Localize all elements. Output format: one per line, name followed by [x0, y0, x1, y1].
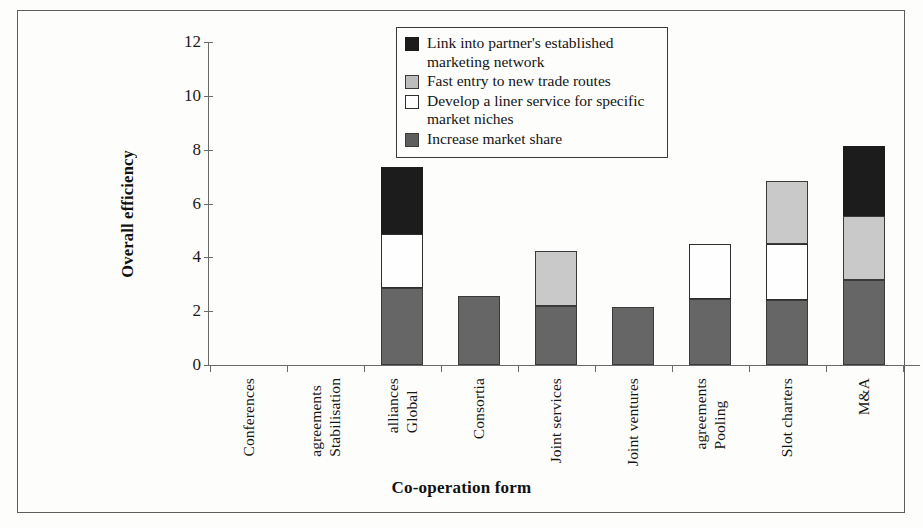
bar-group	[766, 181, 808, 365]
bar-segment	[458, 296, 500, 365]
x-category-label-line: Joint services	[547, 378, 565, 463]
y-tick-mark	[204, 204, 213, 205]
legend-item-label: Link into partner's established marketin…	[427, 34, 659, 71]
legend-item-label: Increase market share	[427, 130, 562, 149]
legend-item-label: Develop a liner service for specific mar…	[427, 92, 659, 129]
bar-segment	[535, 306, 577, 365]
bar-segment	[689, 299, 731, 365]
x-category-label: M&A	[824, 378, 904, 415]
y-tick-label: 12	[184, 32, 201, 52]
legend-swatch-icon	[405, 133, 419, 147]
y-tick-label: 4	[193, 247, 202, 267]
x-category-label-line: agreements	[692, 378, 710, 450]
x-category-label-line: Stabilisation	[326, 378, 344, 457]
x-category-label-line: Pooling	[711, 378, 729, 450]
legend-swatch-icon	[405, 37, 419, 51]
x-category-label: Stabilisationagreements	[285, 378, 365, 457]
x-category-label: Slot charters	[747, 378, 827, 457]
x-tick-mark	[518, 365, 519, 372]
x-tick-mark	[826, 365, 827, 372]
legend-swatch-icon	[405, 75, 419, 89]
y-tick-mark	[204, 42, 213, 43]
bar-segment	[766, 181, 808, 244]
legend-item: Develop a liner service for specific mar…	[405, 92, 659, 129]
legend-item: Link into partner's established marketin…	[405, 34, 659, 71]
bar-group	[612, 307, 654, 365]
x-tick-mark	[441, 365, 442, 372]
y-tick-label: 6	[193, 194, 202, 214]
bar-segment	[381, 167, 423, 234]
x-category-label: Poolingagreements	[670, 378, 750, 450]
bar-group	[689, 244, 731, 365]
bar-segment	[689, 244, 731, 299]
x-category-label: Consortia	[439, 378, 519, 439]
bar-segment	[843, 280, 885, 365]
y-axis-title: Overall efficiency	[118, 150, 138, 278]
x-category-label-line: Conferences	[240, 378, 258, 457]
x-category-label-line: Joint ventures	[624, 378, 642, 466]
chart-figure: Overall efficiency Co-operation form 024…	[0, 0, 923, 528]
bar-group	[843, 146, 885, 365]
bar-segment	[766, 300, 808, 365]
x-axis-line	[208, 365, 920, 366]
x-category-label-line: Slot charters	[778, 378, 796, 457]
legend-item-label: Fast entry to new trade routes	[427, 72, 611, 91]
x-category-label-line: alliances	[384, 378, 402, 433]
bar-segment	[612, 307, 654, 365]
x-category-label: Joint ventures	[593, 378, 673, 466]
legend-item: Fast entry to new trade routes	[405, 72, 659, 91]
y-tick-label: 8	[193, 140, 202, 160]
y-tick-mark	[204, 365, 213, 366]
legend-item: Increase market share	[405, 130, 659, 149]
x-tick-mark	[287, 365, 288, 372]
y-tick-label: 10	[184, 86, 201, 106]
bar-segment	[843, 216, 885, 281]
y-tick-mark	[204, 96, 213, 97]
x-category-label: Conferences	[208, 378, 288, 457]
bar-group	[458, 296, 500, 365]
bar-segment	[766, 244, 808, 301]
bar-segment	[381, 288, 423, 365]
bar-group	[381, 167, 423, 365]
x-category-label: Joint services	[516, 378, 596, 463]
x-tick-mark	[903, 365, 904, 372]
x-category-label-line: Consortia	[470, 378, 488, 439]
y-tick-mark	[204, 311, 213, 312]
x-tick-mark	[749, 365, 750, 372]
bar-segment	[535, 251, 577, 306]
x-tick-mark	[672, 365, 673, 372]
bar-group	[535, 251, 577, 365]
bar-segment	[381, 234, 423, 288]
x-category-label-line: agreements	[307, 378, 325, 457]
x-axis-title: Co-operation form	[0, 478, 923, 498]
y-tick-label: 0	[193, 355, 202, 375]
x-category-label-line: M&A	[855, 378, 873, 415]
y-tick-mark	[204, 150, 213, 151]
legend-swatch-icon	[405, 95, 419, 109]
y-tick-label: 2	[193, 301, 202, 321]
bar-segment	[843, 146, 885, 216]
chart-legend: Link into partner's established marketin…	[396, 27, 668, 158]
x-category-label-line: Global	[403, 378, 421, 433]
x-tick-mark	[595, 365, 596, 372]
x-category-label: Globalalliances	[362, 378, 442, 433]
y-tick-mark	[204, 257, 213, 258]
x-tick-mark	[364, 365, 365, 372]
x-tick-mark	[210, 365, 211, 372]
